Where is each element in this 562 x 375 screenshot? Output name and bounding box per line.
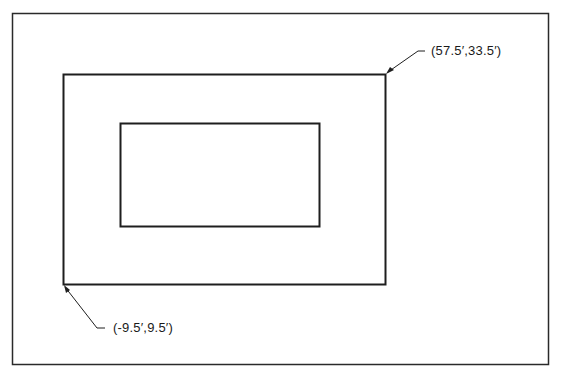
inner-rectangle <box>121 124 320 227</box>
coordinate-label-lower-left: (-9.5′,9.5′) <box>113 320 173 335</box>
leader-lower-left <box>64 285 105 328</box>
leader-upper-right <box>386 51 425 74</box>
border-frame <box>13 14 549 365</box>
outer-rectangle <box>64 75 386 285</box>
diagram-canvas: (57.5′,33.5′) (-9.5′,9.5′) <box>0 0 562 375</box>
coordinate-label-upper-right: (57.5′,33.5′) <box>431 43 501 58</box>
